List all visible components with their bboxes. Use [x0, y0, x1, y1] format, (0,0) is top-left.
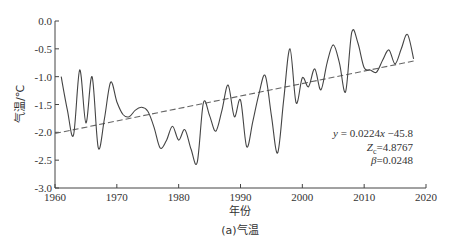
y-tick-label: -1.0	[35, 71, 53, 83]
temperature-chart: 0.0-0.5-1.0-1.5-2.0-2.5-3.0 196019701980…	[0, 0, 453, 249]
y-tick-label: 0.0	[38, 15, 52, 27]
y-axis-label: 气温/℃	[13, 85, 27, 123]
x-tick-label: 1970	[106, 191, 129, 203]
regression-equation: y = 0.0224x −45.8	[332, 127, 413, 139]
x-tick-label: 2000	[291, 191, 314, 203]
y-tick-label: -2.0	[35, 126, 53, 138]
trend-line	[55, 61, 414, 133]
x-axis-label: 年份	[229, 204, 251, 218]
x-tick-label: 2010	[353, 191, 376, 203]
beta-slope: β=0.0248	[370, 154, 413, 166]
x-axis-ticks: 1960197019801990200020102020	[44, 184, 438, 203]
x-tick-label: 2020	[415, 191, 438, 203]
x-tick-label: 1960	[44, 191, 67, 203]
y-tick-label: -2.5	[35, 154, 53, 166]
y-tick-label: -1.5	[35, 99, 53, 111]
figure-caption: (a)气温	[221, 223, 258, 237]
y-tick-label: -0.5	[35, 43, 53, 55]
x-tick-label: 1980	[168, 191, 191, 203]
x-tick-label: 1990	[230, 191, 253, 203]
